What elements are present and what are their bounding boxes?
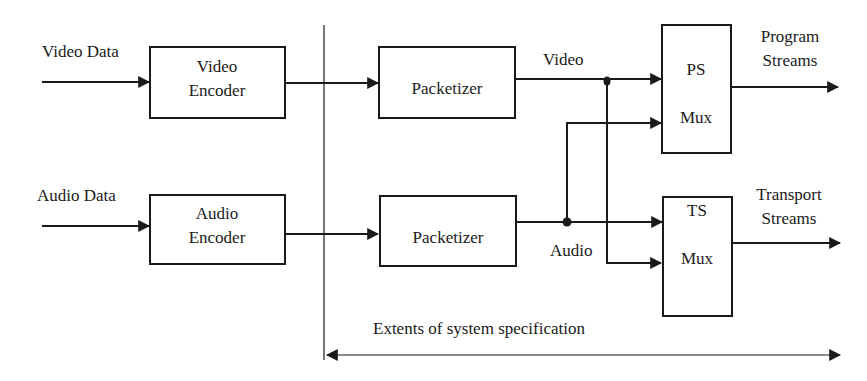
video-data-label: Video Data [42,42,119,61]
ps-mux-line2: Mux [680,108,713,127]
audio-data-label: Audio Data [37,186,116,205]
video-encoder-block: Video Encoder [150,47,285,118]
program-streams-line2: Streams [763,51,818,70]
video-packetizer-label: Packetizer [412,79,483,98]
video-encoder-line2: Encoder [189,81,246,100]
audio-encoder-line2: Encoder [189,228,246,247]
ps-mux-block: PS Mux [662,25,731,153]
audio-packetizer-block: Packetizer [380,196,516,266]
extent-label: Extents of system specification [373,319,585,338]
video-packetizer-block: Packetizer [379,47,515,118]
program-streams-line1: Program [761,27,820,46]
audio-to-ps-mux-arrow [567,123,661,222]
ps-mux-line1: PS [687,60,706,79]
ts-mux-block: TS Mux [663,197,732,316]
mpeg-system-diagram: Video Data Video Encoder Packetizer Vide… [0,0,867,381]
audio-packetizer-label: Packetizer [413,228,484,247]
ts-mux-line2: Mux [681,249,714,268]
transport-streams-line1: Transport [756,185,822,204]
audio-encoder-line1: Audio [196,204,239,223]
transport-streams-line2: Streams [762,209,817,228]
ts-mux-line1: TS [687,201,707,220]
video-encoder-line1: Video [197,57,238,76]
video-signal-label: Video [543,50,584,69]
audio-encoder-block: Audio Encoder [150,195,285,264]
video-to-ts-mux-arrow [607,81,661,263]
audio-signal-label: Audio [550,241,593,260]
